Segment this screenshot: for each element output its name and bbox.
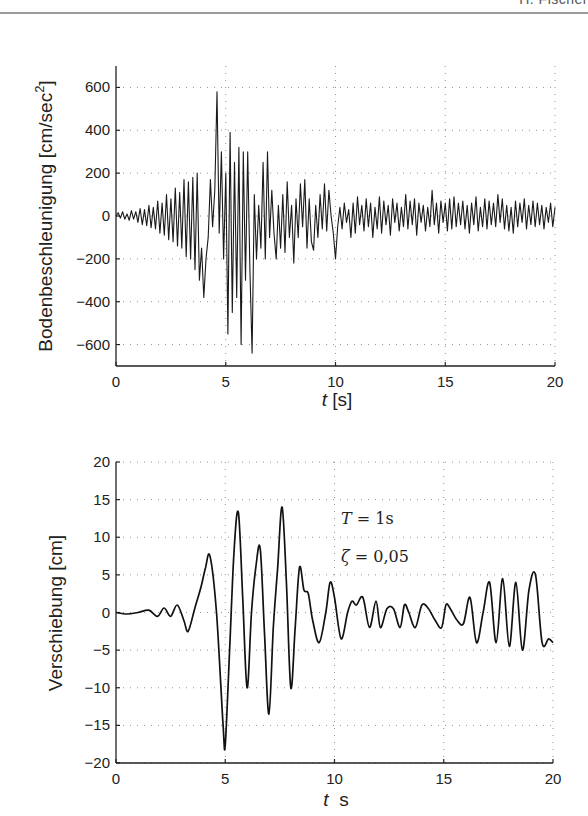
displacement-series-line bbox=[116, 507, 553, 750]
y-tick-label: −400 bbox=[76, 293, 110, 310]
y-tick-label: 400 bbox=[85, 121, 110, 138]
y-tick-label: 0 bbox=[102, 604, 110, 621]
x-tick-label: 20 bbox=[547, 373, 564, 390]
x-tick-label: 15 bbox=[437, 373, 454, 390]
displacement-tick-labels: 05101520−20−15−10−505101520 bbox=[85, 453, 562, 787]
x-tick-label: 5 bbox=[222, 373, 230, 390]
acceleration-series-line bbox=[116, 92, 555, 353]
y-tick-label: −5 bbox=[93, 641, 110, 658]
acceleration-chart: 05101520−600−400−2000200400600 t [s] Bod… bbox=[32, 66, 563, 410]
x-tick-label: 5 bbox=[221, 770, 229, 787]
y-tick-label: 10 bbox=[93, 528, 110, 545]
x-tick-label: 15 bbox=[435, 770, 452, 787]
y-tick-label: −15 bbox=[85, 716, 110, 733]
y-tick-label: 600 bbox=[85, 78, 110, 95]
y-tick-label: 200 bbox=[85, 164, 110, 181]
x-tick-label: 0 bbox=[112, 770, 120, 787]
x-tick-label: 0 bbox=[112, 373, 120, 390]
annotation-label: ζ = 0,05 bbox=[341, 547, 409, 566]
y-tick-label: −200 bbox=[76, 250, 110, 267]
acceleration-grid bbox=[116, 66, 555, 366]
x-tick-label: 10 bbox=[327, 373, 344, 390]
displacement-y-axis-title: Verschiebung [cm] bbox=[45, 535, 66, 691]
displacement-x-axis-title: t s bbox=[323, 789, 348, 810]
acceleration-y-axis-title: Bodenbeschleunigung [cm/sec2] bbox=[32, 80, 56, 351]
acceleration-x-axis-title: t [s] bbox=[322, 389, 353, 410]
y-tick-label: 20 bbox=[93, 453, 110, 470]
figure: 05101520−600−400−2000200400600 t [s] Bod… bbox=[0, 0, 588, 816]
acceleration-tick-labels: 05101520−600−400−2000200400600 bbox=[76, 78, 563, 390]
displacement-chart: 05101520−20−15−10−505101520 T = 1sζ = 0,… bbox=[45, 453, 561, 810]
y-tick-label: 0 bbox=[102, 207, 110, 224]
x-tick-label: 20 bbox=[545, 770, 562, 787]
y-tick-label: −20 bbox=[85, 754, 110, 771]
y-tick-label: 5 bbox=[102, 566, 110, 583]
acceleration-axes bbox=[116, 66, 555, 366]
annotation-label: T = 1s bbox=[341, 509, 394, 528]
y-tick-label: 15 bbox=[93, 491, 110, 508]
x-tick-label: 10 bbox=[326, 770, 343, 787]
y-tick-label: −600 bbox=[76, 336, 110, 353]
displacement-annotations: T = 1sζ = 0,05 bbox=[341, 509, 409, 566]
y-tick-label: −10 bbox=[85, 679, 110, 696]
